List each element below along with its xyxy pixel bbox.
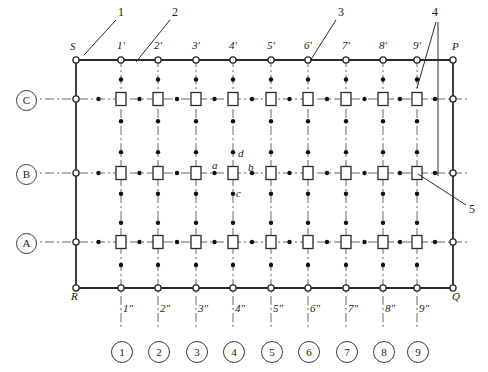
column-circle-label-4: 4 (223, 341, 245, 363)
device-box-c9[interactable] (412, 93, 422, 106)
column-circle-label-2: 2 (148, 341, 170, 363)
node-top-9[interactable] (414, 57, 420, 63)
branch-dot-c3-cb1 (194, 119, 198, 123)
node-left-C[interactable] (73, 96, 79, 102)
column-bottom-label-9: 9″ (419, 303, 429, 314)
branch-dot-c7-ba1 (344, 192, 348, 196)
branch-dot-c1-ba2 (119, 220, 123, 224)
device-box-c5[interactable] (266, 93, 276, 106)
device-box-b2[interactable] (153, 167, 163, 180)
node-top-8[interactable] (380, 57, 386, 63)
node-bottom-7[interactable] (343, 285, 349, 291)
row-dot-C-4 (250, 97, 254, 101)
device-box-c3[interactable] (191, 93, 201, 106)
device-box-b4[interactable] (228, 167, 238, 180)
callout-leader-4 (417, 22, 436, 88)
node-bottom-2[interactable] (155, 285, 161, 291)
column-bottom-label-2: 2″ (160, 303, 170, 314)
row-dot-B-6 (325, 171, 329, 175)
row-dot-C-2 (175, 97, 179, 101)
device-box-c8[interactable] (378, 93, 388, 106)
node-bottom-8[interactable] (380, 285, 386, 291)
callout-number-4: 4 (432, 6, 438, 18)
row-dot-C-end (433, 97, 437, 101)
node-top-1[interactable] (118, 57, 124, 63)
device-box-a3[interactable] (191, 236, 201, 249)
branch-dot-c2-top (156, 77, 160, 81)
row-circle-label-A: A (16, 233, 37, 254)
node-bottom-9[interactable] (414, 285, 420, 291)
branch-dot-c1-ba1 (119, 192, 123, 196)
device-box-c6[interactable] (303, 93, 313, 106)
branch-dot-c2-ba1 (156, 192, 160, 196)
row-dot-C-6 (325, 97, 329, 101)
row-dot-A-5 (287, 240, 291, 244)
node-left-A[interactable] (73, 239, 79, 245)
branch-dot-c5-ba1 (269, 192, 273, 196)
device-box-c2[interactable] (153, 93, 163, 106)
branch-dot-c2-ba2 (156, 220, 160, 224)
node-right-A[interactable] (450, 239, 456, 245)
device-box-c1[interactable] (116, 93, 126, 106)
node-top-3[interactable] (193, 57, 199, 63)
device-box-b8[interactable] (378, 167, 388, 180)
branch-dot-c3-ba1 (194, 192, 198, 196)
detail-label-d: d (238, 148, 244, 159)
device-box-a2[interactable] (153, 236, 163, 249)
frame-corner-S[interactable] (73, 57, 79, 63)
column-circle-label-9: 9 (407, 341, 429, 363)
branch-dot-c9-cb1 (415, 119, 419, 123)
column-bottom-label-7: 7″ (348, 303, 358, 314)
row-dot-A-1 (137, 240, 141, 244)
node-top-4[interactable] (230, 57, 236, 63)
column-top-label-3: 3' (192, 40, 200, 51)
branch-dot-c4-ba1 (231, 192, 235, 196)
branch-dot-c4-cb1 (231, 119, 235, 123)
device-box-a7[interactable] (341, 236, 351, 249)
node-bottom-5[interactable] (268, 285, 274, 291)
branch-dot-c3-ba2 (194, 220, 198, 224)
device-box-a4[interactable] (228, 236, 238, 249)
frame-corner-P[interactable] (450, 57, 456, 63)
diagram-canvas: S P Q R 1'2'3'4'5'6'7'8'9'1″2″3″4″5″6″7″… (0, 0, 488, 372)
node-top-7[interactable] (343, 57, 349, 63)
row-dot-B-0 (96, 171, 100, 175)
device-box-a9[interactable] (412, 236, 422, 249)
branch-dot-c6-ba2 (306, 220, 310, 224)
node-bottom-4[interactable] (230, 285, 236, 291)
device-box-b3[interactable] (191, 167, 201, 180)
device-box-b5[interactable] (266, 167, 276, 180)
column-bottom-label-1: 1″ (123, 303, 133, 314)
branch-dot-c4-bot (231, 263, 235, 267)
device-box-a1[interactable] (116, 236, 126, 249)
device-box-c7[interactable] (341, 93, 351, 106)
branch-dot-c9-bot (415, 263, 419, 267)
device-box-a6[interactable] (303, 236, 313, 249)
device-box-a5[interactable] (266, 236, 276, 249)
branch-dot-c1-cb1 (119, 119, 123, 123)
row-dot-A-2 (175, 240, 179, 244)
node-bottom-3[interactable] (193, 285, 199, 291)
device-box-b6[interactable] (303, 167, 313, 180)
node-right-B[interactable] (450, 170, 456, 176)
branch-dot-c6-top (306, 77, 310, 81)
row-dot-B-end (433, 171, 437, 175)
node-bottom-6[interactable] (305, 285, 311, 291)
node-top-2[interactable] (155, 57, 161, 63)
row-dot-C-5 (287, 97, 291, 101)
device-box-b1[interactable] (116, 167, 126, 180)
node-right-C[interactable] (450, 96, 456, 102)
device-box-b7[interactable] (341, 167, 351, 180)
callout-leader-2 (136, 20, 170, 62)
branch-dot-c4-top (231, 77, 235, 81)
node-top-5[interactable] (268, 57, 274, 63)
branch-dot-c2-cb1 (156, 119, 160, 123)
detail-label-b: b (248, 162, 254, 173)
device-box-b9[interactable] (412, 167, 422, 180)
device-box-c4[interactable] (228, 93, 238, 106)
device-box-a8[interactable] (378, 236, 388, 249)
branch-dot-c3-cb2 (194, 150, 198, 154)
node-bottom-1[interactable] (118, 285, 124, 291)
node-left-B[interactable] (73, 170, 79, 176)
column-top-label-8: 8' (379, 40, 387, 51)
